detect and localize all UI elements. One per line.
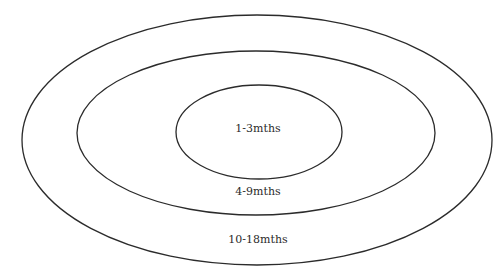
outer-ring [22,15,492,265]
concentric-timeline-diagram: 1-3mths 4-9mths 10-18mths [0,0,498,275]
inner-ring-label: 1-3mths [235,122,281,135]
middle-ring-label: 4-9mths [235,185,281,198]
outer-ring-label: 10-18mths [228,233,288,246]
